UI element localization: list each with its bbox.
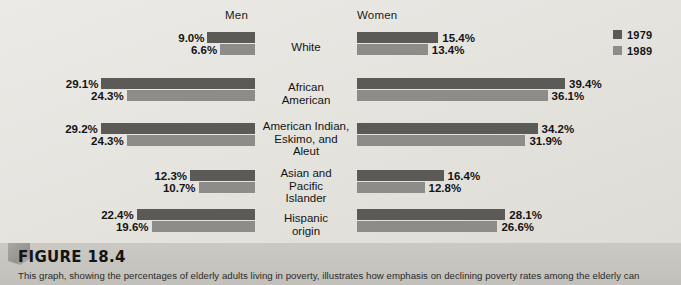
bar-men-1979 (207, 32, 255, 43)
category-label: Asian and Pacific Islander (258, 167, 354, 205)
bar-men-1979 (101, 78, 255, 89)
bar-men-1989 (127, 135, 255, 146)
caption-panel: FIGURE 18.4 This graph, showing the perc… (0, 243, 681, 285)
figure-title: FIGURE 18.4 (18, 248, 126, 266)
bar-value-men-1979: 22.4% (101, 210, 134, 221)
bar-value-women-1989: 31.9% (529, 136, 562, 147)
bar-men-1989 (199, 182, 255, 193)
column-header-women: Women (357, 9, 397, 21)
bar-women-1989 (357, 221, 497, 232)
chart-row: American Indian, Eskimo, and Aleut29.2%2… (0, 121, 681, 159)
category-label: American Indian, Eskimo, and Aleut (258, 120, 354, 158)
bar-value-women-1979: 34.2% (542, 124, 575, 135)
bar-men-1979 (137, 209, 255, 220)
bar-value-women-1979: 28.1% (509, 210, 542, 221)
bar-women-1989 (357, 44, 428, 55)
column-header-men: Men (225, 9, 248, 21)
bar-value-men-1979: 29.2% (65, 124, 98, 135)
category-label: Hispanic origin (258, 212, 354, 237)
bar-value-women-1989: 12.8% (429, 183, 462, 194)
chart-row: White9.0%6.6%15.4%13.4% (0, 30, 681, 68)
bar-men-1989 (127, 90, 255, 101)
bar-value-women-1989: 36.1% (552, 91, 585, 102)
bar-value-men-1989: 24.3% (91, 91, 124, 102)
bar-value-men-1979: 12.3% (154, 171, 187, 182)
bar-men-1989 (220, 44, 255, 55)
bar-women-1979 (357, 123, 538, 134)
bar-men-1979 (190, 170, 255, 181)
bar-men-1979 (101, 123, 255, 134)
category-label: African American (258, 81, 354, 106)
chart-row: Hispanic origin22.4%19.6%28.1%26.6% (0, 207, 681, 243)
bar-value-women-1979: 15.4% (442, 33, 475, 44)
bar-women-1989 (357, 90, 548, 101)
bar-value-men-1979: 29.1% (66, 79, 99, 90)
bar-value-men-1989: 6.6% (191, 45, 217, 56)
bar-value-women-1979: 39.4% (569, 79, 602, 90)
bar-value-women-1989: 26.6% (501, 222, 534, 233)
bar-women-1979 (357, 209, 505, 220)
bar-women-1989 (357, 182, 425, 193)
bar-women-1979 (357, 170, 444, 181)
figure-caption: This graph, showing the percentages of e… (18, 270, 668, 281)
category-label: White (258, 41, 354, 54)
figure-container: Men Women 1979 1989 White9.0%6.6%15.4%13… (0, 0, 681, 285)
bar-women-1979 (357, 32, 438, 43)
bar-value-men-1989: 19.6% (116, 222, 149, 233)
bar-value-men-1989: 24.3% (91, 136, 124, 147)
bar-value-women-1979: 16.4% (448, 171, 481, 182)
chart-row: Asian and Pacific Islander12.3%10.7%16.4… (0, 168, 681, 206)
chart-panel: Men Women 1979 1989 White9.0%6.6%15.4%13… (0, 0, 681, 243)
chart-row: African American29.1%24.3%39.4%36.1% (0, 76, 681, 114)
bar-value-men-1979: 9.0% (178, 33, 204, 44)
bar-women-1979 (357, 78, 565, 89)
bar-men-1989 (152, 221, 255, 232)
bar-women-1989 (357, 135, 525, 146)
bar-value-men-1989: 10.7% (163, 183, 196, 194)
bar-value-women-1989: 13.4% (432, 45, 465, 56)
